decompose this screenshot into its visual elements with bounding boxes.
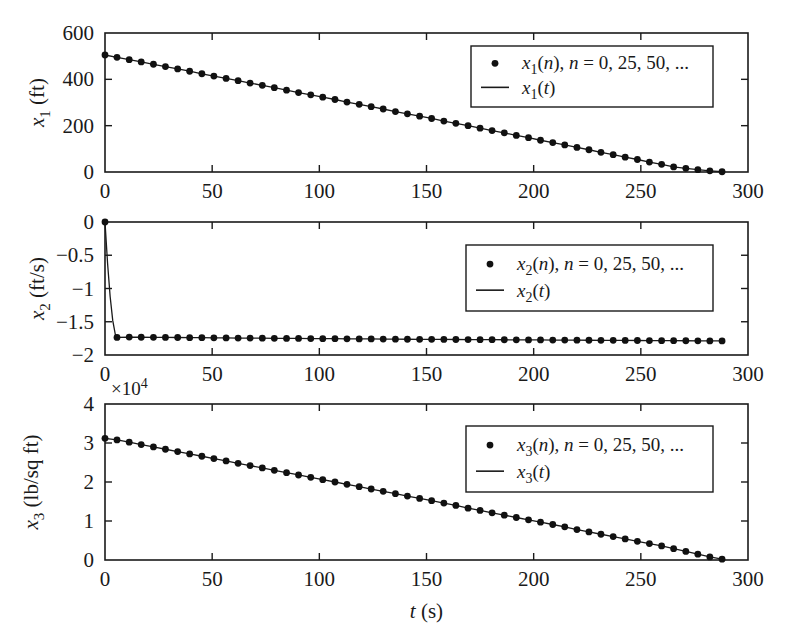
data-marker-point: [646, 159, 653, 166]
data-marker-point: [223, 335, 230, 342]
data-marker-point: [319, 335, 326, 342]
data-marker-point: [501, 336, 508, 343]
data-marker-point: [295, 89, 302, 96]
data-marker-point: [186, 451, 193, 458]
legend-segment: ),: [548, 253, 564, 275]
data-marker-point: [404, 336, 411, 343]
y-axis-title: x2 (ft/s): [25, 257, 53, 321]
x-tick-label: 50: [202, 567, 223, 591]
data-marker-point: [706, 338, 713, 345]
legend-subscript: 3: [525, 471, 532, 486]
data-marker-point: [356, 336, 363, 343]
data-marker-point: [670, 164, 677, 171]
data-marker-point: [416, 495, 423, 502]
y-tick-label: 2: [84, 470, 95, 494]
figure-container: 0501001502002503000200400600x1 (ft)x1(n)…: [0, 0, 789, 642]
data-marker-point: [380, 336, 387, 343]
data-marker-point: [598, 531, 605, 538]
data-marker-point: [162, 334, 169, 341]
data-marker-point: [634, 156, 641, 163]
data-marker-point: [537, 337, 544, 344]
chart-svg-canvas: 0501001502002503000200400600x1 (ft)x1(n)…: [0, 0, 789, 642]
data-marker-point: [622, 337, 629, 344]
data-marker-point: [561, 523, 568, 530]
data-marker-point: [307, 91, 314, 98]
legend-subscript: 1: [530, 62, 537, 77]
data-marker-point: [682, 165, 689, 172]
data-marker-point: [719, 338, 726, 345]
data-marker-point: [102, 435, 109, 442]
x-tick-label: 150: [411, 567, 443, 591]
legend-segment: = 0, 25, 50, ...: [574, 253, 684, 274]
data-marker-point: [586, 146, 593, 153]
multiplier-exponent: 4: [141, 376, 148, 391]
data-marker-point: [150, 61, 157, 68]
y-axis-subscript: 2: [37, 303, 53, 311]
data-marker-point: [525, 134, 532, 141]
data-marker-point: [706, 553, 713, 560]
legend-segment: = 0, 25, 50, ...: [579, 52, 689, 73]
data-marker-point: [223, 75, 230, 82]
data-marker-point: [682, 548, 689, 555]
data-marker-point: [622, 154, 629, 161]
y-tick-label: 4: [84, 392, 95, 416]
x1-altitude-subplot: 0501001502002503000200400600x1 (ft)x1(n)…: [25, 21, 764, 203]
data-marker-point: [102, 52, 109, 59]
legend-marker-dot: [487, 261, 494, 268]
data-marker-point: [380, 488, 387, 495]
x-tick-label: 100: [304, 567, 336, 591]
data-marker-point: [114, 54, 121, 61]
y-tick-label: 1: [84, 509, 95, 533]
y-tick-label: −1: [72, 277, 94, 301]
data-marker-point: [634, 337, 641, 344]
data-marker-point: [271, 335, 278, 342]
data-marker-point: [126, 334, 133, 341]
data-marker-point: [598, 149, 605, 156]
data-marker-point: [610, 533, 617, 540]
data-marker-point: [235, 335, 242, 342]
y-axis-title: x3 (lb/sq ft): [19, 435, 47, 531]
x-axis-unit: (s): [416, 599, 443, 623]
data-marker-point: [332, 479, 339, 486]
data-marker-point: [247, 80, 254, 87]
x-tick-label: 300: [732, 362, 764, 386]
data-marker-point: [634, 538, 641, 545]
data-marker-point: [235, 460, 242, 467]
legend-segment: ),: [548, 434, 564, 456]
x3-pressure-subplot: 05010015020025030001234×104x3 (lb/sq ft)…: [19, 376, 764, 591]
y-axis-unit: (ft/s): [25, 257, 49, 303]
x-tick-label: 100: [304, 179, 336, 203]
data-marker-point: [465, 336, 472, 343]
data-marker-point: [356, 101, 363, 108]
data-marker-point: [525, 516, 532, 523]
data-marker-point: [694, 337, 701, 344]
data-marker-point: [162, 446, 169, 453]
data-marker-point: [574, 337, 581, 344]
data-marker-point: [561, 337, 568, 344]
data-marker-point: [295, 472, 302, 479]
data-marker-point: [428, 336, 435, 343]
data-marker-point: [271, 84, 278, 91]
data-marker-point: [489, 509, 496, 516]
data-marker-point: [186, 334, 193, 341]
x-tick-label: 0: [100, 567, 111, 591]
x-tick-label: 150: [411, 179, 443, 203]
legend: x3(n), n = 0, 25, 50, ...x3(t): [466, 426, 713, 492]
data-marker-point: [561, 142, 568, 149]
legend-subscript: 2: [525, 263, 532, 278]
data-marker-point: [452, 502, 459, 509]
x-tick-label: 300: [732, 179, 764, 203]
data-marker-point: [658, 337, 665, 344]
data-marker-point: [658, 161, 665, 168]
data-marker-point: [368, 336, 375, 343]
data-marker-point: [259, 335, 266, 342]
data-marker-point: [452, 336, 459, 343]
y-tick-label: 600: [63, 21, 95, 45]
data-marker-point: [646, 337, 653, 344]
x-tick-label: 300: [732, 567, 764, 591]
data-marker-point: [126, 439, 133, 446]
data-marker-point: [392, 108, 399, 115]
data-marker-point: [586, 529, 593, 536]
data-marker-point: [259, 465, 266, 472]
data-marker-point: [344, 99, 351, 106]
